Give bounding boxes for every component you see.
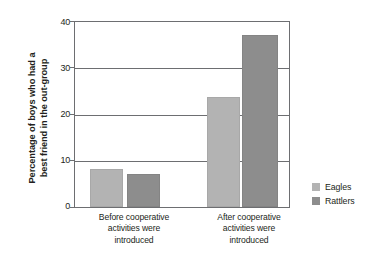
x-category-label-after-line-2: activities were bbox=[190, 223, 308, 234]
bar-before-eagles bbox=[90, 169, 123, 207]
legend-swatch-eagles-icon bbox=[312, 183, 320, 191]
legend-swatch-rattlers-icon bbox=[312, 197, 320, 205]
x-category-label-before-line-3: introduced bbox=[71, 235, 197, 246]
x-category-label-after: After cooperative activities were introd… bbox=[190, 212, 308, 246]
y-axis-title-line-1: Percentage of boys who had a bbox=[26, 53, 38, 184]
x-category-label-after-line-1: After cooperative bbox=[190, 212, 308, 223]
bar-before-rattlers bbox=[127, 174, 160, 207]
bar-chart: Percentage of boys who had a best friend… bbox=[0, 0, 375, 262]
x-category-label-after-line-3: introduced bbox=[190, 235, 308, 246]
bar-after-rattlers bbox=[242, 35, 278, 207]
legend-label-rattlers: Rattlers bbox=[325, 196, 355, 206]
plot-area bbox=[74, 21, 290, 208]
x-category-label-before: Before cooperative activities were intro… bbox=[71, 212, 197, 246]
y-axis-title: Percentage of boys who had a best friend… bbox=[23, 18, 53, 218]
legend-label-eagles: Eagles bbox=[325, 182, 351, 192]
legend: Eagles Rattlers bbox=[312, 182, 355, 206]
y-axis-title-line-2: best friend in the out-group bbox=[38, 59, 50, 178]
bar-after-eagles bbox=[207, 97, 240, 207]
x-category-label-before-line-2: activities were bbox=[71, 223, 197, 234]
legend-item-eagles: Eagles bbox=[312, 182, 355, 192]
x-category-label-before-line-1: Before cooperative bbox=[71, 212, 197, 223]
legend-item-rattlers: Rattlers bbox=[312, 196, 355, 206]
